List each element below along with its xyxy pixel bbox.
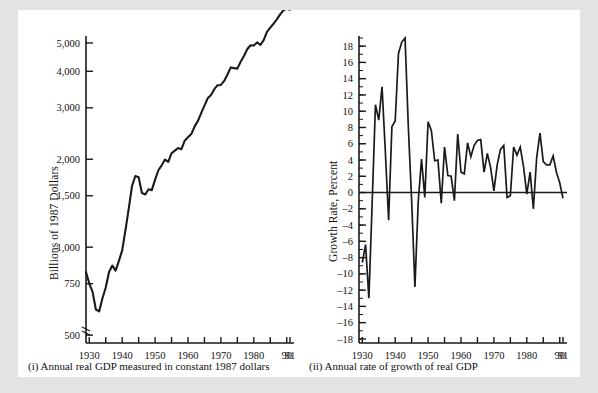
chart-panel-real-gdp-level: 5007501,0001,5002,0003,0004,0005,0001930… <box>18 10 299 377</box>
data-series-line <box>362 38 563 298</box>
y-tick-label: 2 <box>348 171 353 182</box>
x-tick-label: 1980 <box>516 350 537 361</box>
y-tick-label: 18 <box>343 41 354 52</box>
y-tick-label: –14 <box>336 301 354 312</box>
y-tick-label: –4 <box>342 220 354 231</box>
y-tick-label: 750 <box>64 278 80 289</box>
caption-right: (ii) Annual rate of growth of real GDP <box>309 360 478 372</box>
y-tick-label: 10 <box>343 106 354 117</box>
y-tick-label: –18 <box>336 334 353 345</box>
y-tick-label: 16 <box>343 57 354 68</box>
y-axis-title-right: Growth Rate, Percent <box>327 161 339 262</box>
y-tick-label: 4 <box>348 155 354 166</box>
y-tick-label: 0 <box>348 187 353 198</box>
x-tick-label: 1970 <box>483 350 504 361</box>
y-axis-title-left: Billions of 1987 Dollars <box>48 166 60 280</box>
x-tick-label: 91 <box>285 350 296 361</box>
y-tick-label: 3,000 <box>56 102 80 113</box>
y-tick-label: 2,000 <box>56 154 80 165</box>
y-tick-label: 14 <box>343 73 354 84</box>
y-tick-label: 8 <box>348 122 353 133</box>
y-tick-label: –6 <box>342 236 354 247</box>
real-gdp-level-plot: 5007501,0001,5002,0003,0004,0005,0001930… <box>18 10 299 377</box>
y-tick-label: 500 <box>64 330 80 341</box>
caption-left: (i) Annual real GDP measured in constant… <box>28 360 270 372</box>
real-gdp-growth-plot: –18–16–14–12–10–8–6–4–202468101214161819… <box>299 10 580 377</box>
data-series-line <box>86 10 290 311</box>
y-tick-label: 5,000 <box>56 38 80 49</box>
chart-panel-real-gdp-growth: –18–16–14–12–10–8–6–4–202468101214161819… <box>299 10 580 377</box>
y-tick-label: –8 <box>342 252 354 263</box>
y-tick-label: –2 <box>342 203 354 214</box>
y-tick-label: 12 <box>343 90 354 101</box>
y-tick-label: 4,000 <box>56 66 80 77</box>
x-tick-label: 91 <box>558 350 569 361</box>
y-tick-label: –12 <box>336 285 353 296</box>
y-tick-label: 6 <box>348 138 353 149</box>
y-tick-label: –16 <box>336 317 353 328</box>
y-tick-label: –10 <box>336 268 353 279</box>
figure-panel: 5007501,0001,5002,0003,0004,0005,0001930… <box>18 10 580 377</box>
